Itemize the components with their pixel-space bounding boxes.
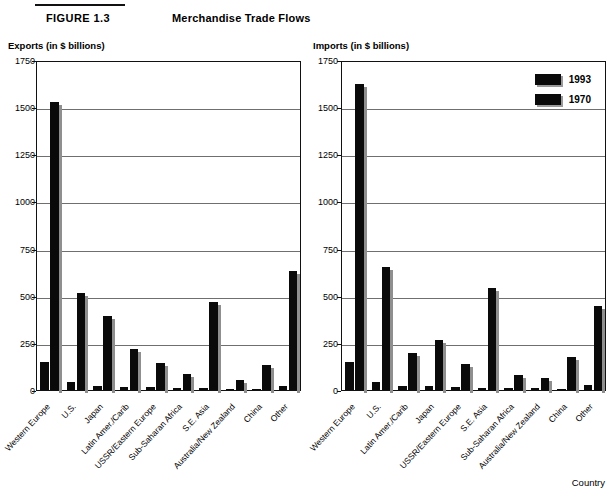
bar-1970 xyxy=(372,382,381,390)
bar-1970 xyxy=(557,389,566,390)
bar-1970 xyxy=(40,362,49,390)
bar-1970 xyxy=(398,386,407,390)
bar-1993 xyxy=(209,302,218,390)
bar-1970 xyxy=(252,389,261,390)
bar-1970 xyxy=(279,386,288,390)
bar-1993 xyxy=(488,288,497,390)
bar-1993 xyxy=(435,340,444,390)
imports-x-axis-labels: Western EuropeU.S.Latin Amer./CaribJapan… xyxy=(305,0,613,496)
figure-page: FIGURE 1.3 Merchandise Trade Flows Expor… xyxy=(0,0,613,496)
bar-1993 xyxy=(130,349,139,390)
bar-1993 xyxy=(50,102,59,391)
exports-chart-panel: Exports (in $ billions) 0250500750100012… xyxy=(0,0,310,496)
bar-1970 xyxy=(584,385,593,390)
bar-1970 xyxy=(93,386,102,390)
bar-1993 xyxy=(236,380,245,390)
bar-1970 xyxy=(345,362,354,390)
bar-1970 xyxy=(478,388,487,390)
bar-1970 xyxy=(451,387,460,390)
bar-1970 xyxy=(146,387,155,390)
bar-1993 xyxy=(77,293,86,390)
bar-1993 xyxy=(461,364,470,390)
imports-chart-panel: Imports (in $ billions) 19931970 0250500… xyxy=(305,0,613,496)
bar-1993 xyxy=(355,84,364,390)
bar-1993 xyxy=(262,365,271,390)
bar-1993 xyxy=(183,374,192,390)
exports-x-axis-labels: Western EuropeU.S.JapanLatin Amer./Carib… xyxy=(0,0,310,496)
x-axis-title: Country xyxy=(572,477,605,488)
bar-1993 xyxy=(567,357,576,390)
bar-1993 xyxy=(594,306,603,390)
bar-1993 xyxy=(289,271,298,390)
bar-1970 xyxy=(67,382,76,390)
bar-1993 xyxy=(541,378,550,390)
bar-1993 xyxy=(103,316,112,390)
bar-1970 xyxy=(226,389,235,391)
bar-1970 xyxy=(531,388,540,390)
bar-1970 xyxy=(425,386,434,390)
bar-1993 xyxy=(156,363,165,390)
bar-1993 xyxy=(514,375,523,390)
bar-1993 xyxy=(408,353,417,390)
bar-1970 xyxy=(173,388,182,390)
bar-1970 xyxy=(504,388,513,390)
bar-1970 xyxy=(120,387,129,390)
bar-1970 xyxy=(199,388,208,390)
bar-1993 xyxy=(382,267,391,390)
